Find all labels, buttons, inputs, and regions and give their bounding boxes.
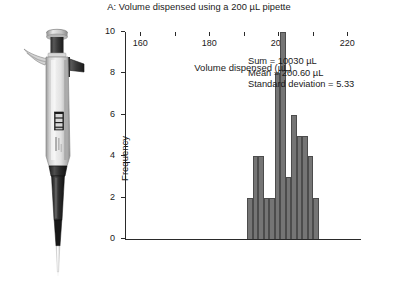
y-tick-label: 6 bbox=[110, 109, 115, 119]
y-tick-label: 4 bbox=[110, 150, 115, 160]
pipette-photo bbox=[22, 24, 96, 276]
stats-sum: Sum = 10030 µL bbox=[248, 56, 354, 68]
stats-mean: Mean = 200.60 µL bbox=[248, 68, 354, 80]
histogram-bar bbox=[313, 198, 319, 239]
y-tick-label: 10 bbox=[105, 26, 115, 36]
stats-stdev: Standard deviation = 5.33 bbox=[248, 79, 354, 91]
histogram-chart: 0246810 160180200220 Frequency Volume di… bbox=[96, 22, 392, 281]
y-tick-label: 2 bbox=[110, 192, 115, 202]
stats-annotation: Sum = 10030 µL Mean = 200.60 µL Standard… bbox=[248, 56, 354, 91]
y-axis-title: Frequency bbox=[119, 136, 130, 181]
y-tick-label: 0 bbox=[110, 233, 115, 243]
figure-title: A: Volume dispensed using a 200 µL pipet… bbox=[0, 2, 398, 12]
plot-area: 0246810 160180200220 Frequency Volume di… bbox=[125, 32, 361, 240]
y-tick-label: 8 bbox=[110, 67, 115, 77]
x-axis-line bbox=[125, 239, 361, 240]
pipette-illustration bbox=[22, 24, 96, 276]
